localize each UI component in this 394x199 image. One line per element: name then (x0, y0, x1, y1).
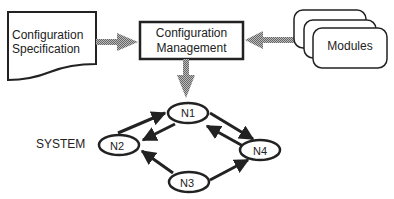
edge-n1-n4 (210, 113, 253, 139)
edge-n2-n1 (118, 113, 165, 133)
arrow-management-to-system (177, 59, 195, 98)
edge-n1-n2 (143, 124, 175, 140)
modules-stack: Modules (294, 10, 387, 68)
svg-text:N1: N1 (181, 107, 195, 119)
configuration-management-box: Configuration Management (140, 22, 243, 59)
arrow-spec-to-management (96, 33, 138, 51)
spec-label-line1: Configuration (12, 28, 83, 42)
configuration-specification-doc: Configuration Specification (8, 12, 96, 80)
node-n2: N2 (99, 135, 139, 155)
system-label: SYSTEM (36, 137, 85, 151)
svg-text:N3: N3 (180, 177, 194, 189)
node-n3: N3 (169, 172, 209, 192)
edge-n3-n4 (210, 160, 248, 180)
node-n4: N4 (240, 140, 280, 160)
mgmt-label-line2: Management (156, 41, 227, 55)
node-n1: N1 (168, 103, 208, 123)
svg-text:N4: N4 (253, 145, 267, 157)
svg-text:N2: N2 (110, 140, 124, 152)
mgmt-label-line1: Configuration (156, 26, 227, 40)
modules-label: Modules (327, 39, 372, 53)
configuration-diagram: Configuration Specification Configuratio… (0, 0, 394, 199)
arrow-modules-to-management (245, 31, 294, 49)
spec-label-line2: Specification (12, 42, 80, 56)
edge-n3-n2 (142, 151, 173, 173)
